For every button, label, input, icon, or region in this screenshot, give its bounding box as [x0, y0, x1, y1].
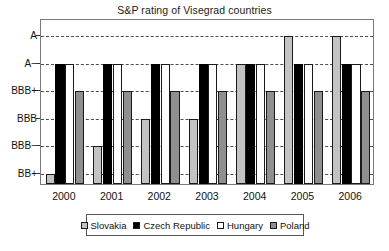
- bar: [342, 64, 351, 184]
- bar: [246, 64, 255, 184]
- x-axis-tick-label: 2004: [243, 190, 266, 202]
- bar: [55, 64, 64, 184]
- bar: [236, 64, 245, 184]
- y-axis-tick-label: BB+: [18, 168, 37, 179]
- bar: [189, 119, 198, 184]
- y-axis-tick-label: BBB−: [11, 140, 37, 151]
- x-axis-tick-label: 2000: [52, 190, 75, 202]
- bar: [284, 36, 293, 184]
- bar: [304, 64, 313, 184]
- x-axis-tick-label: 2002: [148, 190, 171, 202]
- legend-swatch-icon: [133, 222, 140, 229]
- chart-legend: SlovakiaCzech RepublicHungaryPoland: [86, 214, 304, 236]
- bar: [199, 64, 208, 184]
- plot-inner: [41, 20, 373, 184]
- bar: [113, 64, 122, 184]
- bar: [332, 36, 341, 184]
- y-axis-tick-label: BBB: [17, 112, 37, 123]
- bar: [294, 64, 303, 184]
- y-axis-tick-mark: [36, 35, 40, 36]
- x-axis-tick-label: 2001: [100, 190, 123, 202]
- plot-area: [40, 19, 374, 185]
- bar: [75, 91, 84, 184]
- legend-swatch-icon: [81, 222, 88, 229]
- legend-item[interactable]: Czech Republic: [133, 220, 210, 231]
- x-axis-tick-label: 2005: [291, 190, 314, 202]
- legend-item[interactable]: Poland: [270, 220, 310, 231]
- legend-item[interactable]: Slovakia: [81, 220, 127, 231]
- bar: [123, 91, 132, 184]
- bar: [314, 91, 323, 184]
- bar: [151, 64, 160, 184]
- chart-title: S&P rating of Visegrad countries: [0, 4, 389, 16]
- bar: [256, 64, 265, 184]
- bar: [161, 64, 170, 184]
- bar: [208, 64, 217, 184]
- y-axis-tick-label: BBB+: [11, 85, 37, 96]
- bar: [141, 119, 150, 184]
- legend-item[interactable]: Hungary: [217, 220, 263, 231]
- bar: [103, 64, 112, 184]
- legend-swatch-icon: [270, 222, 277, 229]
- bar: [93, 146, 102, 184]
- bar: [351, 64, 360, 184]
- legend-label: Poland: [280, 220, 310, 231]
- bar: [170, 91, 179, 184]
- x-axis-tick-label: 2006: [338, 190, 361, 202]
- bar: [46, 174, 55, 184]
- legend-swatch-icon: [217, 222, 224, 229]
- y-axis-tick-mark: [36, 118, 40, 119]
- bar: [266, 91, 275, 184]
- y-axis-tick-mark: [36, 90, 40, 91]
- bar: [361, 91, 370, 184]
- bar: [218, 91, 227, 184]
- y-axis-tick-mark: [36, 63, 40, 64]
- chart-container: S&P rating of Visegrad countries BB+BBB−…: [0, 0, 389, 251]
- y-axis-tick-mark: [36, 173, 40, 174]
- legend-label: Slovakia: [91, 220, 127, 231]
- bar: [65, 64, 74, 184]
- y-axis-tick-mark: [36, 145, 40, 146]
- x-axis-tick-label: 2003: [195, 190, 218, 202]
- legend-label: Hungary: [227, 220, 263, 231]
- gridline: [41, 36, 373, 37]
- legend-label: Czech Republic: [143, 220, 210, 231]
